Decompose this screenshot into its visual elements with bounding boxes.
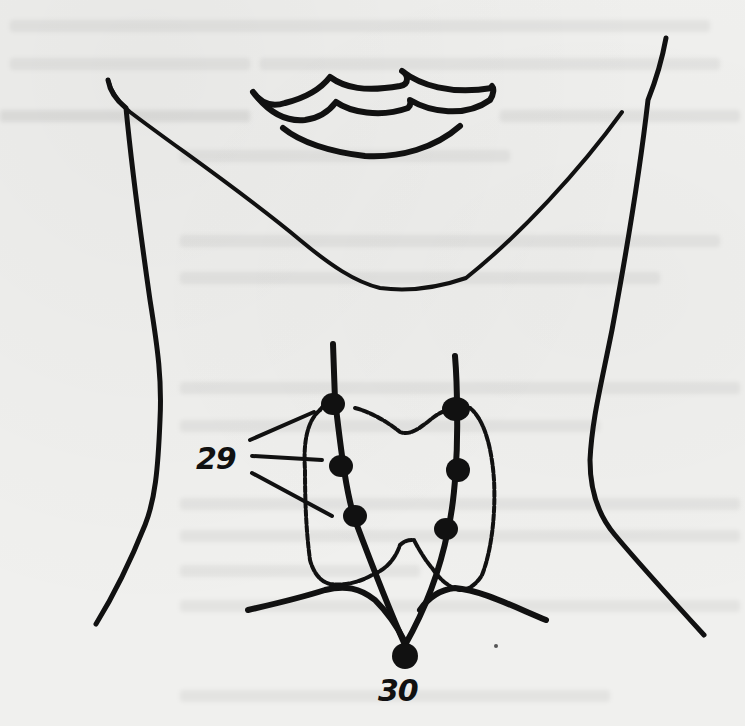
point-right-upper[interactable] [442,397,470,421]
point-30[interactable] [392,643,418,669]
point-right-lower[interactable] [434,518,458,540]
label-30: 30 [378,676,418,706]
thyroid-left-lobe [305,410,414,585]
diagram-page: 29 30 [0,0,745,726]
neck-thyroid-diagram [0,0,745,726]
point-29-middle[interactable] [329,455,353,477]
right-neck-outline [590,38,704,635]
label-29: 29 [196,444,236,474]
pointer-line-29-middle [252,456,322,460]
left-neck-outline [96,80,161,624]
point-29-lower[interactable] [343,505,367,527]
pointer-line-29-lower [252,473,332,516]
pointer-line-29-upper [250,412,314,440]
paper-speck [494,644,498,648]
point-right-middle[interactable] [446,458,470,482]
left-vertical-channel [333,344,405,645]
point-29-upper[interactable] [321,393,345,415]
upper-lip-top [253,71,492,105]
right-clavicle [420,588,546,620]
lower-lip [283,126,460,156]
